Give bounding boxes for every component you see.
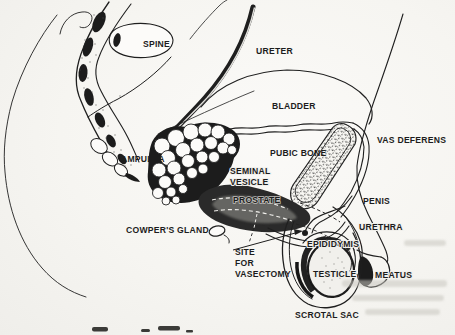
- label-spine: SPINE: [143, 39, 170, 49]
- ureter-tube: [158, 7, 255, 140]
- label-site-for-vasectomy-line1: SITE: [235, 247, 255, 257]
- label-cowpers-gland: COWPER'S GLAND: [126, 225, 209, 235]
- label-seminal-vesicle-line1: SEMINAL: [230, 166, 270, 176]
- label-vas-deferens: VAS DEFERENS: [377, 135, 446, 145]
- cowpers-gland-shape: [208, 224, 229, 243]
- label-ureter: URETER: [256, 46, 293, 56]
- scan-artifacts: [92, 240, 447, 333]
- label-bladder: BLADDER: [272, 101, 316, 111]
- pubic-bone-shape: [291, 124, 356, 209]
- label-pubic-bone: PUBIC BONE: [270, 148, 326, 158]
- label-penis: PENIS: [363, 196, 390, 206]
- label-seminal-vesicle-line2: VESICLE: [230, 177, 269, 187]
- label-prostate: PROSTATE: [233, 195, 281, 205]
- label-meatus: MEATUS: [375, 270, 412, 280]
- diagram-canvas: SPINE URETER BLADDER VAS DEFERENS PUBIC …: [0, 0, 455, 335]
- label-site-for-vasectomy-line2: FOR: [235, 258, 254, 268]
- label-testicle: TESTICLE: [313, 269, 357, 279]
- label-urethra: URETHRA: [359, 222, 403, 232]
- bladder-shape: [201, 70, 372, 124]
- label-site-for-vasectomy-line3: VASECTOMY: [235, 269, 291, 279]
- label-ampulla: AMPULLA: [121, 154, 165, 164]
- label-scrotal-sac: SCROTAL SAC: [295, 310, 359, 320]
- label-epididymis: EPIDIDYMIS: [307, 239, 359, 249]
- arrowhead: [294, 229, 303, 235]
- anatomical-diagram-figure: SPINE URETER BLADDER VAS DEFERENS PUBIC …: [0, 0, 455, 335]
